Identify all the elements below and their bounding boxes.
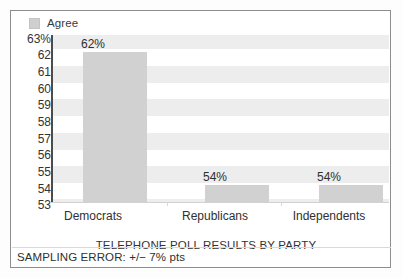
scanned-page: Agree 63% 62 61 60 59 58 57 56 55 54 53 <box>0 0 403 278</box>
y-axis-tick: 58 <box>38 115 51 129</box>
bar-value-independents: 54% <box>289 170 369 184</box>
y-axis-tick: 59 <box>38 98 51 112</box>
x-axis-category-independents: Independents <box>279 209 379 223</box>
plot-region: 63% 62 61 60 59 58 57 56 55 54 53 <box>11 33 390 223</box>
legend-swatch-icon <box>29 18 40 29</box>
y-axis-tick: 61 <box>38 65 51 79</box>
y-axis-tick: 57 <box>38 132 51 146</box>
legend-item-label: Agree <box>47 17 78 29</box>
bar-republicans[interactable] <box>205 185 269 202</box>
y-axis-tick: 63% <box>27 32 51 46</box>
sampling-error-note: SAMPLING ERROR: +/− 7% pts <box>17 251 185 263</box>
x-axis-baseline <box>51 202 389 203</box>
y-axis-tick: 54 <box>38 182 51 196</box>
footer-divider <box>12 247 391 248</box>
bar-democrats[interactable] <box>83 52 147 202</box>
bar-value-democrats: 62% <box>53 37 133 51</box>
x-axis-title: TELEPHONE POLL RESULTS BY PARTY <box>41 239 371 251</box>
x-axis-category-republicans: Republicans <box>165 209 265 223</box>
y-axis-tick: 56 <box>38 148 51 162</box>
y-axis-tick: 62 <box>38 48 51 62</box>
x-axis-tick-mark <box>281 202 282 206</box>
figure-frame: Agree 63% 62 61 60 59 58 57 56 55 54 53 <box>10 10 391 268</box>
chart-legend: Agree <box>29 17 78 29</box>
y-axis-tick: 60 <box>38 82 51 96</box>
y-axis-tick: 55 <box>38 165 51 179</box>
bar-independents[interactable] <box>319 185 383 202</box>
x-axis-category-democrats: Democrats <box>43 209 143 223</box>
y-axis-tick-labels: 63% 62 61 60 59 58 57 56 55 54 53 <box>11 33 51 199</box>
bar-value-republicans: 54% <box>175 170 255 184</box>
x-axis-tick-mark <box>167 202 168 206</box>
